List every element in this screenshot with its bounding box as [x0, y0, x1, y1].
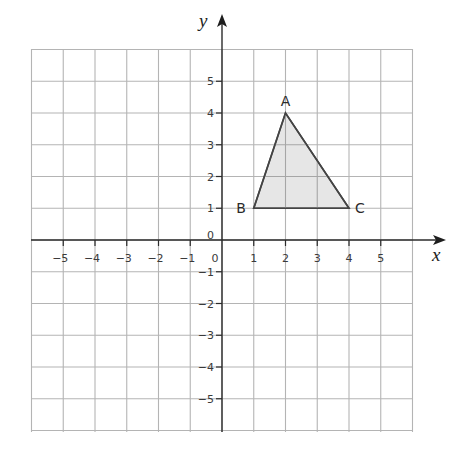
y-axis-label: y	[197, 10, 208, 31]
y-tick-label: 2	[207, 171, 214, 184]
coordinate-grid-diagram: −5−4−3−2−1012345−5−4−3−2−1012345 ABC x y	[0, 0, 470, 455]
x-tick-label: 1	[250, 252, 257, 265]
y-tick-label: −1	[198, 266, 214, 279]
vertex-label-c: C	[355, 200, 365, 216]
y-tick-label: 0	[207, 229, 214, 242]
y-tick-label: −5	[198, 393, 214, 406]
y-tick-label: 1	[207, 202, 214, 215]
y-tick-label: −2	[198, 298, 214, 311]
x-tick-label: 5	[377, 252, 384, 265]
vertex-label-a: A	[281, 93, 291, 109]
axes	[31, 14, 446, 432]
y-tick-label: 5	[207, 75, 214, 88]
triangle-polygon	[254, 113, 349, 208]
vertex-label-b: B	[236, 200, 246, 216]
x-tick-label: −1	[179, 252, 195, 265]
triangle-abc	[254, 113, 349, 208]
x-axis-label: x	[431, 244, 441, 265]
x-tick-label: 3	[314, 252, 321, 265]
x-tick-label: 0	[212, 252, 219, 265]
y-tick-label: 4	[207, 107, 214, 120]
plot-canvas: −5−4−3−2−1012345−5−4−3−2−1012345 ABC x y	[0, 0, 470, 455]
y-tick-label: −4	[198, 361, 214, 374]
x-tick-label: −2	[147, 252, 163, 265]
x-tick-label: −4	[84, 252, 100, 265]
x-tick-label: 4	[346, 252, 353, 265]
x-tick-label: −5	[52, 252, 68, 265]
y-tick-label: −3	[198, 329, 214, 342]
x-tick-label: −3	[116, 252, 132, 265]
y-tick-label: 3	[207, 139, 214, 152]
x-tick-label: 2	[282, 252, 289, 265]
